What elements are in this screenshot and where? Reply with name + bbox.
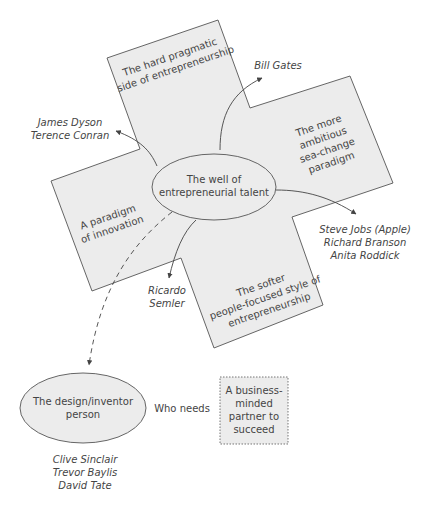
- bottom-examples: Ricardo Semler: [142, 284, 192, 310]
- top-examples: Bill Gates: [248, 59, 308, 72]
- example-anita-roddick: Anita Roddick: [315, 249, 415, 262]
- example-clive-sinclair: Clive Sinclair: [45, 453, 125, 466]
- center-node-line-2: entrepreneurial talent: [152, 186, 276, 199]
- example-steve-jobs: Steve Jobs (Apple): [315, 223, 415, 236]
- center-node-label: The well of entrepreneurial talent: [152, 173, 276, 199]
- left-examples: James Dyson Terence Conran: [30, 116, 110, 142]
- partner-box-line-1: A business-: [220, 384, 288, 397]
- inventor-node-label: The design/inventor person: [25, 395, 141, 421]
- inventor-node-line-1: The design/inventor: [25, 395, 141, 408]
- connector-label: Who needs: [152, 402, 212, 415]
- example-david-tate: David Tate: [45, 479, 125, 492]
- partner-box-line-3: partner to: [220, 410, 288, 423]
- example-james-dyson: James Dyson: [30, 116, 110, 129]
- example-richard-branson: Richard Branson: [315, 236, 415, 249]
- partner-box-line-2: minded: [220, 397, 288, 410]
- right-examples: Steve Jobs (Apple) Richard Branson Anita…: [315, 223, 415, 262]
- example-bill-gates: Bill Gates: [248, 59, 308, 72]
- example-semler: Semler: [142, 297, 192, 310]
- inventor-examples: Clive Sinclair Trevor Baylis David Tate: [45, 453, 125, 492]
- example-ricardo: Ricardo: [142, 284, 192, 297]
- center-node-line-1: The well of: [152, 173, 276, 186]
- example-terence-conran: Terence Conran: [30, 129, 110, 142]
- partner-box-label: A business- minded partner to succeed: [220, 384, 288, 436]
- example-trevor-baylis: Trevor Baylis: [45, 466, 125, 479]
- partner-box-line-4: succeed: [220, 423, 288, 436]
- inventor-node-line-2: person: [25, 408, 141, 421]
